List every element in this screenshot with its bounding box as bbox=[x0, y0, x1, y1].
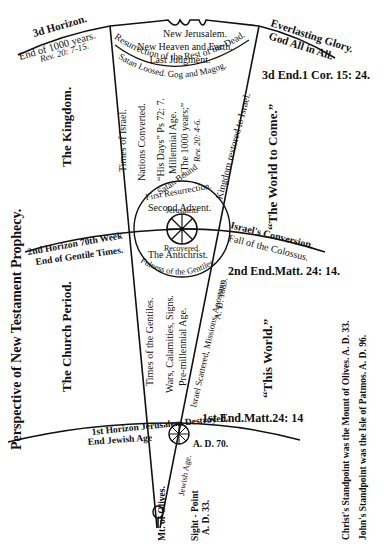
jewish-age: Jewish Age. bbox=[176, 454, 193, 496]
label-world-to-come: “The World to Come.” bbox=[265, 104, 280, 230]
diagram-title: Perspective of New Testament Prophecy. bbox=[9, 209, 24, 450]
ad-1889: A. D. 1889. bbox=[212, 277, 229, 320]
times-of-gentiles: Times of the Gentiles. bbox=[144, 297, 155, 386]
times-of-israel: Times of Israel. bbox=[117, 109, 128, 172]
antichrist: The Antichrist. bbox=[148, 249, 208, 260]
premillennial-age: Pre-millennial Age. bbox=[177, 308, 188, 386]
ad-33: A. D. 33. bbox=[201, 500, 211, 535]
jerusalem-label: Jerusalem bbox=[166, 206, 199, 215]
first-end: 1st End.Matt.24: 14 bbox=[202, 411, 303, 425]
nations-converted: Nations Converted. bbox=[136, 103, 147, 181]
top-edge bbox=[110, 20, 259, 26]
prophecy-diagram: Perspective of New Testament Prophecy. T… bbox=[0, 0, 391, 552]
wars-calamities: Wars, Calamities, Signs. bbox=[164, 295, 175, 393]
second-end: 2nd End.Matt. 24: 14. bbox=[228, 264, 340, 278]
new-jerusalem: New Jerusalem. bbox=[163, 28, 227, 39]
christ-standpoint: Christ's Standpoint was the Mount of Oli… bbox=[341, 321, 351, 540]
label-kingdom: The Kingdom. bbox=[59, 87, 74, 167]
cone-left-line bbox=[110, 26, 157, 528]
third-end: 3d End.1 Cor. 15: 24. bbox=[262, 68, 370, 82]
kingdom-restored: Kingdom restored to Israel. bbox=[213, 91, 252, 200]
label-church-period: The Church Period. bbox=[59, 281, 74, 392]
ad-70: A. D. 70. bbox=[193, 439, 228, 449]
mt-olives: Mt. of Olives. bbox=[157, 486, 167, 541]
millennial-age: Millennial Age. bbox=[167, 111, 178, 174]
rev-20-ref: Rev. 20: 4-6. bbox=[192, 119, 202, 163]
his-days: “His Days” Ps 72: 7. bbox=[155, 98, 166, 181]
john-standpoint: John's Standpoint was the Isle of Patmos… bbox=[358, 335, 368, 540]
sight-point: Sight - Point bbox=[190, 489, 200, 541]
label-this-world: “This World.” bbox=[260, 319, 275, 398]
